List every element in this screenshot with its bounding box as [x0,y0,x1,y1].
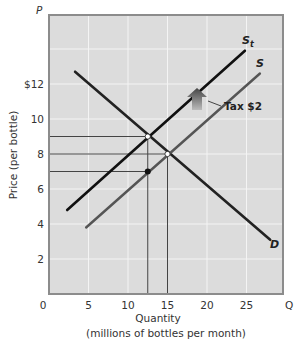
y-tick-label: 2 [37,253,44,265]
y-axis-symbol: P [36,4,43,16]
point-with-tax-seller-price [145,169,151,175]
x-axis-label: Quantity [135,312,180,324]
x-tick-label: 15 [161,299,174,311]
point-with-tax-buyer-price [145,134,150,139]
x-axis-symbol: Q [285,299,293,311]
y-tick-label: 6 [37,183,44,195]
x-tick-label: 10 [121,299,134,311]
tax-label: Tax $2 [224,100,262,112]
y-tick-label: $12 [24,78,44,90]
x-axis-sublabel: (millions of bottles per month) [86,327,246,339]
y-axis-label: Price (per bottle) [7,111,19,200]
x-tick-label: 20 [200,299,213,311]
label-demand: D [270,238,279,251]
supply-demand-tax-chart: Tax $2 DSSt 0510152025246810$12 P Q Pric… [0,0,297,341]
y-tick-label: 8 [37,148,44,160]
y-tick-label: 4 [37,218,44,230]
x-tick-label: 0 [40,299,47,311]
x-tick-label: 25 [240,299,253,311]
x-tick-label: 5 [85,299,92,311]
label-supply: S [256,57,264,70]
point-original [165,151,170,156]
y-tick-label: 10 [31,113,44,125]
